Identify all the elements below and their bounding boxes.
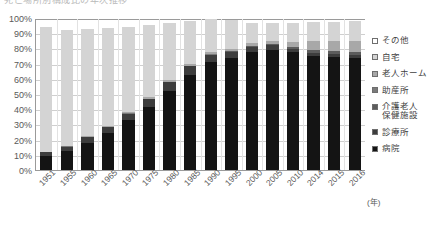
bar-segment: [81, 19, 93, 29]
legend-swatch-icon: [372, 87, 378, 93]
stacked-bar[interactable]: [205, 19, 217, 170]
x-axis-slot: 1975: [138, 171, 159, 211]
legend-swatch-icon: [372, 54, 378, 60]
legend-item-label: 診療所: [382, 128, 409, 137]
bar-segment: [307, 41, 319, 50]
stacked-bar[interactable]: [328, 19, 340, 170]
page-title: 死亡場所別構成比の年次推移: [4, 0, 304, 5]
bar-segment: [122, 27, 134, 112]
stacked-bar[interactable]: [349, 19, 361, 170]
bar-segment: [246, 52, 258, 170]
legend-item-home[interactable]: 自宅: [372, 53, 442, 62]
bar-segment: [143, 107, 155, 170]
bar-segment: [40, 27, 52, 152]
legend-item-label: 老人ホーム: [382, 69, 427, 78]
bar-segment: [328, 22, 340, 41]
y-axis-labels: 100%90%80%70%60%50%40%30%20%10%0%: [0, 0, 34, 228]
bar-segment: [328, 41, 340, 51]
bar-segment: [349, 41, 361, 51]
stacked-bar[interactable]: [225, 19, 237, 170]
y-axis-tick-label: 20%: [14, 137, 32, 146]
stacked-bar[interactable]: [287, 19, 299, 170]
x-axis-tick-label: 1970: [120, 168, 140, 188]
legend-item-geriatric_health_facility[interactable]: 介護老人 保健施設: [372, 102, 442, 120]
x-axis-slot: 1990: [200, 171, 221, 211]
bar-segment: [225, 58, 237, 170]
y-axis-tick-label: 50%: [14, 91, 32, 100]
bar-segment: [40, 19, 52, 27]
x-axis-unit-label: (年): [367, 199, 380, 207]
stacked-bar[interactable]: [246, 19, 258, 170]
stacked-bar[interactable]: [122, 19, 134, 170]
y-axis-tick-label: 0%: [19, 167, 32, 176]
legend-item-hospital[interactable]: 病院: [372, 144, 442, 153]
stacked-bar[interactable]: [143, 19, 155, 170]
bar-slot: [283, 19, 304, 170]
x-axis-tick-label: 2000: [244, 168, 264, 188]
legend-item-label: 自宅: [382, 53, 400, 62]
bar-segment: [184, 66, 196, 75]
bar-slot: [180, 19, 201, 170]
x-axis-slot: 1995: [221, 171, 242, 211]
stacked-bar[interactable]: [184, 19, 196, 170]
x-axis-slot: 1951: [35, 171, 56, 211]
bar-segment: [102, 133, 114, 170]
legend-item-midwifery_home[interactable]: 助産所: [372, 86, 442, 95]
bar-segment: [349, 58, 361, 170]
stacked-bar[interactable]: [163, 19, 175, 170]
x-axis-slot: 1985: [179, 171, 200, 211]
y-axis-tick-label: 30%: [14, 121, 32, 130]
x-axis-tick-label: 1960: [79, 168, 99, 188]
bar-slot: [57, 19, 78, 170]
chart-container: 死亡場所別構成比の年次推移 100%90%80%70%60%50%40%30%2…: [0, 0, 442, 228]
x-axis-slot: 1970: [118, 171, 139, 211]
legend-item-other[interactable]: その他: [372, 36, 442, 45]
bar-segment: [143, 25, 155, 97]
bar-slot: [201, 19, 222, 170]
bar-segment: [163, 91, 175, 170]
x-axis-slot: 1955: [56, 171, 77, 211]
y-axis-tick-label: 90%: [14, 30, 32, 39]
bar-segment: [61, 30, 73, 146]
x-axis-slot: 1980: [159, 171, 180, 211]
x-axis-slot: 2015: [324, 171, 345, 211]
legend-item-clinic[interactable]: 診療所: [372, 128, 442, 137]
bar-segment: [205, 19, 217, 52]
x-axis-tick-label: 1980: [162, 168, 182, 188]
x-axis-tick-label: 1975: [141, 168, 161, 188]
bar-slot: [159, 19, 180, 170]
y-axis-tick-label: 80%: [14, 45, 32, 54]
bar-slot: [77, 19, 98, 170]
x-axis-tick-label: 2010: [285, 168, 305, 188]
legend-swatch-icon: [372, 38, 378, 44]
stacked-bar[interactable]: [307, 19, 319, 170]
bar-segment: [184, 21, 196, 64]
bar-segment: [205, 55, 217, 62]
stacked-bar[interactable]: [266, 19, 278, 170]
x-axis-tick-label: 2014: [306, 168, 326, 188]
stacked-bar[interactable]: [102, 19, 114, 170]
legend-item-nursing_home[interactable]: 老人ホーム: [372, 69, 442, 78]
bar-segment: [163, 82, 175, 91]
bar-segment: [122, 19, 134, 27]
bar-segment: [102, 19, 114, 28]
bar-segment: [349, 21, 361, 41]
stacked-bar[interactable]: [40, 19, 52, 170]
bar-slot: [344, 19, 365, 170]
bar-segment: [205, 62, 217, 170]
bar-slot: [118, 19, 139, 170]
bar-slot: [303, 19, 324, 170]
legend-item-label: 病院: [382, 144, 400, 153]
bar-segment: [61, 19, 73, 30]
bar-segment: [184, 75, 196, 170]
y-axis-tick-label: 60%: [14, 76, 32, 85]
x-axis-slot: 1965: [97, 171, 118, 211]
bar-segment: [246, 23, 258, 44]
bar-segment: [122, 120, 134, 170]
x-axis-tick-label: 1990: [203, 168, 223, 188]
stacked-bar[interactable]: [61, 19, 73, 170]
x-axis-slot: 1960: [76, 171, 97, 211]
plot-area: [35, 19, 365, 171]
x-axis-slot: 2000: [241, 171, 262, 211]
stacked-bar[interactable]: [81, 19, 93, 170]
